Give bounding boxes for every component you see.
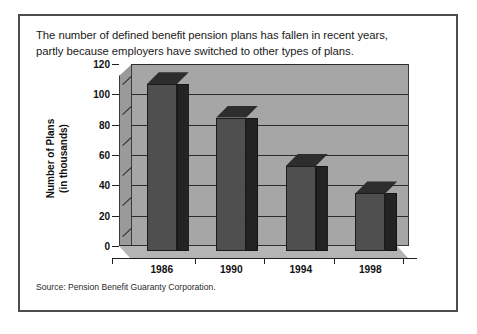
x-axis-tick-label: 1998 — [359, 264, 382, 275]
y-axis-tick-label: 60 — [99, 150, 110, 161]
y-axis-tick-mark — [112, 185, 119, 186]
x-axis-tick-mark — [264, 258, 265, 264]
y-axis-tick-mark — [112, 125, 119, 126]
plot-area — [119, 64, 409, 264]
y-axis-tick-label: 100 — [93, 89, 110, 100]
x-axis-tick-mark — [403, 258, 404, 264]
x-axis-tick-mark — [112, 258, 113, 264]
y-axis-tick-mark — [112, 155, 119, 156]
y-axis-tick-mark — [112, 246, 119, 247]
x-axis-tick-mark — [195, 258, 196, 264]
y-axis-tick-label: 120 — [93, 59, 110, 70]
bar-front-face — [286, 166, 316, 251]
y-axis-tick-mark — [112, 216, 119, 217]
y-axis-tick-label: 20 — [99, 210, 110, 221]
bar-side-face — [246, 118, 258, 251]
caption-line-2: partly because employers have switched t… — [36, 44, 444, 60]
bar-side-face — [385, 193, 397, 251]
x-axis-tick-label: 1994 — [289, 264, 312, 275]
figure-frame: The number of defined benefit pension pl… — [18, 14, 458, 312]
gridline — [131, 64, 409, 65]
y-axis-tick-labels: 020406080100120 — [82, 64, 110, 246]
bar-side-face — [316, 166, 328, 251]
caption-line-1: The number of defined benefit pension pl… — [36, 28, 444, 44]
y-axis-tick-mark — [112, 94, 119, 95]
bar — [355, 193, 385, 251]
bar-front-face — [147, 84, 177, 251]
y-axis-tick-label: 40 — [99, 180, 110, 191]
x-axis-tick-mark — [334, 258, 335, 264]
bar — [216, 118, 246, 251]
y-axis-tick-label: 0 — [104, 241, 110, 252]
y-axis-title-line-2: (in thousands) — [57, 94, 70, 224]
x-axis-tick-label: 1986 — [150, 264, 173, 275]
bar-chart: Number of Plans (in thousands) 020406080… — [20, 64, 460, 276]
y-axis-tick-label: 80 — [99, 119, 110, 130]
y-axis-title: Number of Plans (in thousands) — [45, 94, 70, 224]
x-axis-tick-label: 1990 — [220, 264, 243, 275]
bar — [147, 84, 177, 251]
y-axis-tick-mark — [112, 64, 119, 65]
bar-front-face — [216, 118, 246, 251]
bar-side-face — [177, 84, 189, 251]
y-axis-title-line-1: Number of Plans — [45, 94, 58, 224]
bar — [286, 166, 316, 251]
figure-caption: The number of defined benefit pension pl… — [36, 28, 444, 59]
source-note: Source: Pension Benefit Guaranty Corpora… — [36, 282, 216, 292]
bar-front-face — [355, 193, 385, 251]
